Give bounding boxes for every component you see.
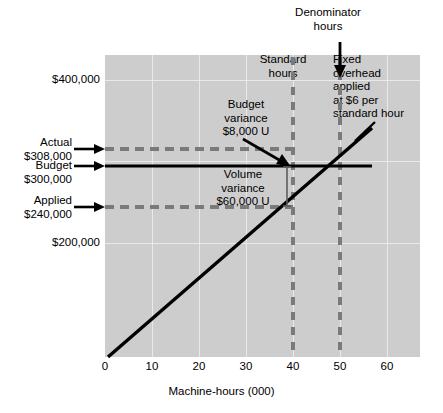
- x-axis-title: Machine-hours (000): [0, 385, 443, 397]
- gridline-vertical-20: [199, 55, 200, 357]
- x-axis-label-0: 0: [88, 360, 122, 372]
- denominator-hours-line2: hours: [272, 20, 384, 34]
- annotation-volume-variance: Volume variance $60,000 U: [204, 168, 282, 209]
- series-label-budget: Budget $300,000: [0, 159, 72, 186]
- fixed-overhead-line5: standard hour: [333, 107, 441, 121]
- budget-value-text: $300,000: [0, 173, 72, 187]
- annotation-budget-variance: Budget variance $8,000 U: [210, 98, 282, 139]
- x-axis-label-20: 20: [182, 360, 216, 372]
- arrow-actual: [74, 144, 105, 154]
- budget-label-text: Budget: [0, 159, 72, 173]
- gridline-horizontal-300000: [105, 161, 420, 162]
- annotation-fixed-overhead-applied: Fixed overhead applied at $6 per standar…: [333, 53, 441, 121]
- fixed-overhead-variance-chart: $400,000 $200,000 Actual $308,000 Budget…: [0, 0, 443, 413]
- series-label-applied: Applied $240,000: [0, 194, 72, 221]
- gridline-horizontal-200000: [105, 243, 420, 244]
- x-axis-label-60: 60: [370, 360, 404, 372]
- arrow-budget: [74, 161, 105, 171]
- fixed-overhead-line2: overhead: [333, 67, 441, 81]
- x-axis-label-40: 40: [276, 360, 310, 372]
- fixed-overhead-line4: at $6 per: [333, 94, 441, 108]
- gridline-vertical-10: [152, 55, 153, 357]
- arrow-applied: [74, 202, 105, 212]
- annotation-standard-hours: Standard hours: [232, 53, 334, 80]
- x-axis-label-10: 10: [135, 360, 169, 372]
- actual-label-text: Actual: [0, 136, 72, 150]
- volume-variance-line2: variance: [204, 182, 282, 196]
- x-axis-label-30: 30: [229, 360, 263, 372]
- fixed-overhead-line3: applied: [333, 80, 441, 94]
- applied-value-text: $240,000: [0, 208, 72, 222]
- y-axis-label-400000: $400,000: [12, 73, 100, 86]
- volume-variance-line1: Volume: [204, 168, 282, 182]
- budget-variance-line2: variance: [210, 112, 282, 126]
- applied-label-text: Applied: [0, 194, 72, 208]
- standard-hours-line1: Standard: [232, 53, 334, 67]
- gridline-vertical-40: [293, 55, 294, 357]
- denominator-hours-line1: Denominator: [272, 6, 384, 20]
- y-axis-label-200000: $200,000: [12, 236, 100, 249]
- annotation-denominator-hours: Denominator hours: [272, 6, 384, 33]
- x-axis-label-50: 50: [323, 360, 357, 372]
- volume-variance-line3: $60,000 U: [204, 195, 282, 209]
- fixed-overhead-line1: Fixed: [333, 53, 441, 67]
- budget-variance-line3: $8,000 U: [210, 125, 282, 139]
- budget-variance-line1: Budget: [210, 98, 282, 112]
- standard-hours-line2: hours: [232, 67, 334, 81]
